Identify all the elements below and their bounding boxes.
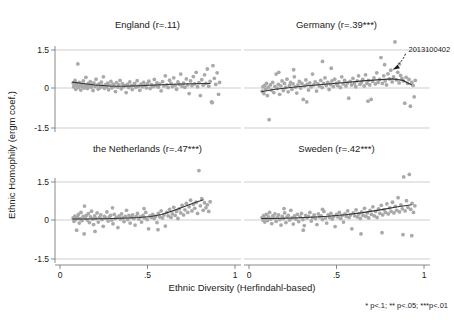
data-point bbox=[375, 71, 379, 75]
data-point bbox=[159, 209, 163, 213]
data-point bbox=[407, 173, 411, 177]
y-tick-label: -1.5 bbox=[34, 123, 49, 133]
data-point bbox=[329, 212, 333, 216]
scatter-plot-figure: England (r=.11)1.50-1.5Germany (r=.39***… bbox=[0, 0, 454, 322]
data-point bbox=[118, 79, 122, 83]
data-point bbox=[168, 207, 172, 211]
data-point bbox=[155, 221, 159, 225]
data-point bbox=[392, 211, 396, 215]
data-point bbox=[315, 89, 319, 93]
x-tick-label: 1 bbox=[422, 270, 427, 280]
data-point bbox=[211, 64, 215, 68]
data-point bbox=[380, 231, 384, 235]
data-point bbox=[208, 80, 212, 84]
data-point bbox=[163, 224, 167, 228]
data-point bbox=[402, 175, 406, 179]
y-axis-title: Ethnic Homophily (ergm coef.) bbox=[6, 91, 17, 219]
data-point bbox=[111, 222, 115, 226]
data-point bbox=[198, 94, 202, 98]
data-point bbox=[83, 204, 87, 208]
data-point bbox=[372, 76, 376, 80]
data-point bbox=[131, 213, 135, 217]
data-point bbox=[107, 88, 111, 92]
data-point bbox=[193, 206, 197, 210]
x-tick-label: 1 bbox=[233, 270, 238, 280]
data-point bbox=[278, 92, 282, 96]
data-point bbox=[379, 203, 383, 207]
data-point bbox=[76, 62, 80, 66]
data-point bbox=[364, 73, 368, 77]
data-point bbox=[368, 83, 372, 87]
data-point bbox=[301, 98, 305, 102]
data-point bbox=[292, 68, 296, 72]
data-point bbox=[359, 232, 363, 236]
data-point bbox=[277, 70, 281, 74]
panel-title-the-netherlands: the Netherlands (r=.47***) bbox=[93, 143, 202, 154]
data-point bbox=[268, 211, 272, 215]
data-point bbox=[312, 213, 316, 217]
data-point bbox=[79, 211, 83, 215]
data-point bbox=[321, 207, 325, 211]
data-point bbox=[375, 216, 379, 220]
data-point bbox=[102, 75, 106, 79]
data-point bbox=[393, 40, 397, 44]
data-point bbox=[291, 82, 295, 86]
data-point bbox=[354, 208, 358, 212]
data-point bbox=[147, 79, 151, 83]
data-point bbox=[358, 217, 362, 221]
panel-england: England (r=.11)1.50-1.5 bbox=[34, 19, 241, 133]
data-point bbox=[145, 218, 149, 222]
data-point bbox=[308, 81, 312, 85]
data-point bbox=[412, 95, 416, 99]
data-point bbox=[379, 56, 383, 60]
data-point bbox=[82, 232, 86, 236]
data-point bbox=[396, 70, 400, 74]
data-point bbox=[346, 209, 350, 213]
scatter-points bbox=[260, 40, 417, 122]
data-point bbox=[265, 94, 269, 98]
data-point bbox=[357, 74, 361, 78]
data-point bbox=[279, 223, 283, 227]
data-point bbox=[284, 221, 288, 225]
data-point bbox=[215, 71, 219, 75]
data-point bbox=[120, 212, 124, 216]
data-point bbox=[99, 80, 103, 84]
data-point bbox=[207, 84, 211, 88]
panel-the-netherlands: the Netherlands (r=.47***)1.50-1.50.51 bbox=[34, 143, 241, 280]
data-point bbox=[291, 222, 295, 226]
data-point bbox=[366, 99, 370, 103]
data-point bbox=[214, 83, 218, 87]
data-point bbox=[403, 101, 407, 105]
data-point bbox=[205, 203, 209, 207]
data-point bbox=[325, 221, 329, 225]
data-point bbox=[203, 73, 207, 77]
data-point bbox=[144, 86, 148, 90]
data-point bbox=[333, 225, 337, 229]
data-point bbox=[329, 66, 333, 70]
data-point bbox=[147, 227, 151, 231]
data-point bbox=[371, 205, 375, 209]
data-point bbox=[144, 211, 148, 215]
data-point bbox=[397, 81, 401, 85]
data-point bbox=[104, 216, 108, 220]
data-point bbox=[413, 204, 417, 208]
data-point bbox=[401, 233, 405, 237]
data-point bbox=[159, 89, 163, 93]
data-point bbox=[86, 212, 90, 216]
data-point bbox=[383, 63, 387, 67]
data-point bbox=[79, 88, 83, 92]
data-point bbox=[166, 86, 170, 90]
data-point bbox=[88, 221, 92, 225]
data-point bbox=[281, 89, 285, 93]
panel-title-sweden: Sweden (r=.42***) bbox=[298, 143, 374, 154]
panel-title-england: England (r=.11) bbox=[115, 19, 180, 30]
data-point bbox=[333, 77, 337, 81]
data-point bbox=[271, 81, 275, 85]
scatter-points bbox=[71, 169, 212, 236]
data-point bbox=[410, 234, 414, 238]
data-point bbox=[100, 218, 104, 222]
data-point bbox=[347, 96, 351, 100]
data-point bbox=[140, 220, 144, 224]
data-point bbox=[277, 213, 281, 217]
data-point bbox=[105, 210, 109, 214]
